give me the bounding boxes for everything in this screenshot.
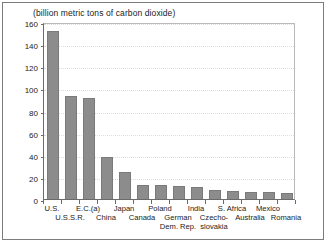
x-tick-label: E.C.(a) (76, 204, 100, 213)
plot-area: 020406080100120140160 (43, 23, 295, 200)
bar (65, 96, 78, 199)
y-tick-label: 60 (29, 130, 38, 139)
x-tick-label: Czecho-slovakia (200, 213, 228, 231)
bar (101, 157, 114, 199)
chart-screenshot: (billion metric tons of carbon dioxide) … (0, 0, 326, 242)
bar (263, 192, 276, 199)
x-tick-label: S. Africa (218, 204, 246, 213)
y-tick-label: 160 (25, 20, 38, 29)
x-tick-label: U.S.S.R. (55, 213, 85, 222)
bar (209, 190, 222, 199)
bar-series (44, 24, 294, 199)
x-tick-label: Mexico (256, 204, 280, 213)
x-tick-label: Canada (129, 213, 156, 222)
bar (281, 193, 294, 199)
y-tick-label: 100 (25, 86, 38, 95)
bar (173, 186, 186, 199)
x-tick-label: Romania (271, 213, 301, 222)
bar (245, 192, 258, 199)
chart-title: (billion metric tons of carbon dioxide) (33, 8, 175, 18)
y-tick-label: 0 (34, 197, 38, 206)
x-tick-mark (295, 200, 296, 204)
x-tick-label: India (188, 204, 204, 213)
bar (119, 172, 132, 199)
x-tick-label: Poland (148, 204, 172, 213)
y-tick-label: 140 (25, 42, 38, 51)
x-tick-label: GermanDem. Rep. (160, 213, 196, 231)
x-tick-label: China (96, 213, 116, 222)
y-tick-label: 20 (29, 174, 38, 183)
bar (155, 185, 168, 199)
x-tick-label: U.S. (45, 204, 60, 213)
x-tick-label: Japan (114, 204, 135, 213)
bar (227, 191, 240, 199)
bar (137, 185, 150, 199)
bar (83, 98, 96, 199)
bar-chart-figure: (billion metric tons of carbon dioxide) … (0, 0, 326, 242)
y-tick-label: 80 (29, 108, 38, 117)
bar (47, 31, 60, 199)
y-tick-label: 40 (29, 152, 38, 161)
y-tick-label: 120 (25, 64, 38, 73)
bar (191, 187, 204, 199)
x-tick-label: Australia (235, 213, 265, 222)
x-axis-labels: U.S.U.S.S.R.E.C.(a)ChinaJapanCanadaPolan… (43, 204, 295, 238)
